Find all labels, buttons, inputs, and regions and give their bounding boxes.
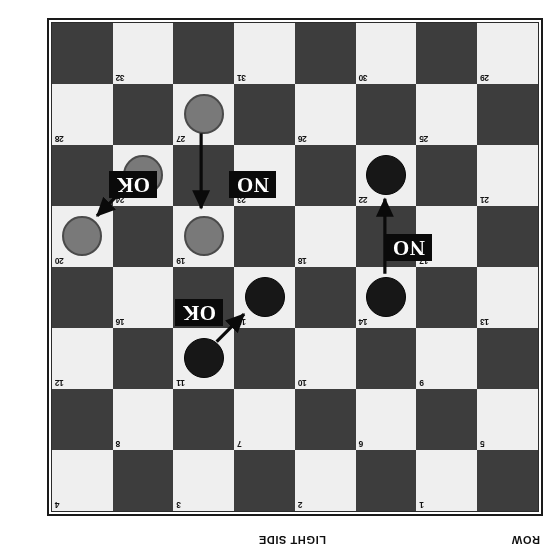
board-square-r1-c3[interactable] xyxy=(356,450,417,511)
board-square-r6-c8[interactable] xyxy=(52,145,113,206)
board-square-r3-c4[interactable]: 10 xyxy=(295,328,356,389)
checkerboard-frame: 1234567891011121314151617181920212223242… xyxy=(47,18,543,516)
square-number-12: 12 xyxy=(55,379,64,388)
checkerboard-grid[interactable]: 1234567891011121314151617181920212223242… xyxy=(51,22,539,512)
board-square-r7-c8[interactable]: 28 xyxy=(52,84,113,145)
board-square-r8-c2[interactable] xyxy=(417,23,478,84)
board-square-r3-c7[interactable] xyxy=(113,328,174,389)
board-square-r4-c3[interactable]: 14 xyxy=(356,267,417,328)
square-number-21: 21 xyxy=(480,196,489,205)
light-piece-on-square-19[interactable] xyxy=(184,217,224,257)
board-square-r1-c8[interactable]: 4 xyxy=(52,450,113,511)
board-square-r1-c1[interactable] xyxy=(477,450,538,511)
square-number-29: 29 xyxy=(480,74,489,83)
board-square-r8-c7[interactable]: 32 xyxy=(113,23,174,84)
board-square-r2-c2[interactable] xyxy=(417,389,478,450)
verdict-chip-ok-move-24-to-20: OK xyxy=(109,171,157,198)
square-number-9: 9 xyxy=(420,379,424,388)
square-number-5: 5 xyxy=(480,440,484,449)
board-square-r5-c8[interactable]: 20 xyxy=(52,206,113,267)
board-square-r2-c3[interactable]: 6 xyxy=(356,389,417,450)
board-square-r7-c5[interactable] xyxy=(234,84,295,145)
square-number-26: 26 xyxy=(298,135,307,144)
board-square-r2-c4[interactable] xyxy=(295,389,356,450)
board-square-r8-c8[interactable] xyxy=(52,23,113,84)
square-number-2: 2 xyxy=(298,501,302,510)
dark-piece-on-square-15[interactable] xyxy=(245,278,285,318)
square-number-27: 27 xyxy=(177,135,186,144)
board-square-r8-c6[interactable] xyxy=(174,23,235,84)
square-number-28: 28 xyxy=(55,135,64,144)
board-square-r7-c7[interactable] xyxy=(113,84,174,145)
board-square-r6-c3[interactable]: 22 xyxy=(356,145,417,206)
square-number-18: 18 xyxy=(298,257,307,266)
square-number-11: 11 xyxy=(177,379,185,388)
board-square-r6-c2[interactable] xyxy=(417,145,478,206)
board-square-r4-c8[interactable] xyxy=(52,267,113,328)
light-piece-on-square-27[interactable] xyxy=(184,95,224,135)
board-square-r7-c4[interactable]: 26 xyxy=(295,84,356,145)
board-square-r3-c6[interactable]: 11 xyxy=(174,328,235,389)
board-square-r1-c6[interactable]: 3 xyxy=(174,450,235,511)
dark-piece-on-square-14[interactable] xyxy=(366,278,406,318)
board-square-r4-c1[interactable]: 13 xyxy=(477,267,538,328)
board-square-r7-c1[interactable] xyxy=(477,84,538,145)
board-square-r5-c6[interactable]: 19 xyxy=(174,206,235,267)
board-square-r8-c3[interactable]: 30 xyxy=(356,23,417,84)
board-square-r2-c8[interactable] xyxy=(52,389,113,450)
board-square-r7-c6[interactable]: 27 xyxy=(174,84,235,145)
verdict-chip-no-move-14-to-22: NO xyxy=(386,234,433,261)
board-square-r4-c4[interactable] xyxy=(295,267,356,328)
board-square-r4-c2[interactable] xyxy=(417,267,478,328)
board-square-r3-c8[interactable]: 12 xyxy=(52,328,113,389)
light-side-label: LIGHT SIDE xyxy=(258,534,326,546)
board-square-r6-c4[interactable] xyxy=(295,145,356,206)
board-square-r6-c1[interactable]: 21 xyxy=(477,145,538,206)
board-square-r4-c5[interactable]: 15 xyxy=(234,267,295,328)
board-square-r1-c4[interactable]: 2 xyxy=(295,450,356,511)
board-square-r3-c2[interactable]: 9 xyxy=(417,328,478,389)
square-number-32: 32 xyxy=(116,74,125,83)
board-square-r7-c3[interactable] xyxy=(356,84,417,145)
square-number-25: 25 xyxy=(420,135,429,144)
board-square-r5-c7[interactable] xyxy=(113,206,174,267)
dark-piece-on-square-11[interactable] xyxy=(184,339,224,379)
board-square-r3-c3[interactable] xyxy=(356,328,417,389)
verdict-chip-ok-move-11-to-15: OK xyxy=(175,299,223,326)
board-square-r3-c1[interactable] xyxy=(477,328,538,389)
row-axis-label: ROW xyxy=(511,534,540,546)
square-number-7: 7 xyxy=(237,440,241,449)
board-square-r5-c5[interactable] xyxy=(234,206,295,267)
board-square-r3-c5[interactable] xyxy=(234,328,295,389)
board-square-r8-c5[interactable]: 31 xyxy=(234,23,295,84)
board-square-r8-c1[interactable]: 29 xyxy=(477,23,538,84)
square-number-10: 10 xyxy=(298,379,307,388)
square-number-8: 8 xyxy=(116,440,120,449)
board-square-r1-c2[interactable]: 1 xyxy=(417,450,478,511)
board-square-r2-c6[interactable] xyxy=(174,389,235,450)
board-square-r5-c1[interactable] xyxy=(477,206,538,267)
square-number-13: 13 xyxy=(480,318,489,327)
board-square-r4-c7[interactable]: 16 xyxy=(113,267,174,328)
light-piece-on-square-20[interactable] xyxy=(62,217,102,257)
board-square-r1-c7[interactable] xyxy=(113,450,174,511)
board-square-r5-c4[interactable]: 18 xyxy=(295,206,356,267)
dark-piece-on-square-22[interactable] xyxy=(366,156,406,196)
board-square-r7-c2[interactable]: 25 xyxy=(417,84,478,145)
square-number-22: 22 xyxy=(359,196,368,205)
square-number-3: 3 xyxy=(177,501,181,510)
board-square-r2-c7[interactable]: 8 xyxy=(113,389,174,450)
square-number-19: 19 xyxy=(177,257,186,266)
board-square-r2-c5[interactable]: 7 xyxy=(234,389,295,450)
board-square-r1-c5[interactable] xyxy=(234,450,295,511)
square-number-16: 16 xyxy=(116,318,125,327)
square-number-6: 6 xyxy=(359,440,363,449)
square-number-4: 4 xyxy=(55,501,59,510)
board-square-r8-c4[interactable] xyxy=(295,23,356,84)
square-number-20: 20 xyxy=(55,257,64,266)
square-number-1: 1 xyxy=(420,501,424,510)
square-number-14: 14 xyxy=(359,318,368,327)
square-number-31: 31 xyxy=(237,74,246,83)
board-square-r6-c6[interactable] xyxy=(174,145,235,206)
board-square-r2-c1[interactable]: 5 xyxy=(477,389,538,450)
